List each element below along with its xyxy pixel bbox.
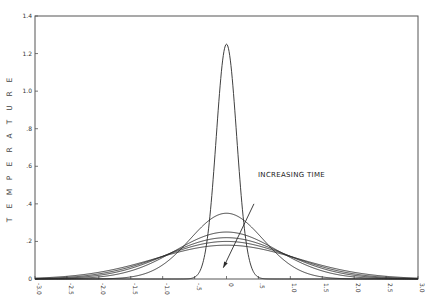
x-tick-label: -1.5 bbox=[132, 283, 139, 295]
x-tick-label: -2.0 bbox=[100, 283, 107, 295]
x-tick-label: -2.5 bbox=[68, 283, 75, 295]
y-label-letter: A bbox=[5, 133, 14, 139]
plot-frame bbox=[35, 16, 418, 279]
x-tick-label: -3.0 bbox=[36, 283, 43, 295]
curve-t2 bbox=[35, 213, 418, 279]
x-tick-label: 2.5 bbox=[387, 283, 394, 293]
temperature-chart: 0.2.4.6.81.01.21.4 -3.0-2.5-2.0-1.5-1.0-… bbox=[0, 0, 429, 306]
x-tick-label: .5 bbox=[259, 283, 266, 289]
y-tick-label: .4 bbox=[26, 200, 32, 207]
x-tick-label: 1.5 bbox=[323, 283, 330, 293]
y-tick-label: 0 bbox=[28, 275, 32, 282]
annotation-label: INCREASING TIME bbox=[258, 171, 325, 179]
x-tick-label: 3.0 bbox=[419, 283, 426, 293]
y-axis-ticks: 0.2.4.6.81.01.21.4 bbox=[22, 12, 38, 282]
y-label-letter: T bbox=[5, 119, 14, 125]
y-label-letter: E bbox=[5, 161, 14, 166]
x-tick-label: 2.0 bbox=[355, 283, 362, 293]
y-label-letter: M bbox=[5, 189, 14, 195]
y-label-letter: U bbox=[5, 105, 14, 111]
y-label-letter: E bbox=[5, 77, 14, 82]
y-label-letter: R bbox=[5, 147, 14, 152]
arrow-head-icon bbox=[223, 261, 227, 267]
y-label-letter: P bbox=[5, 175, 14, 180]
y-label-letter: E bbox=[5, 203, 14, 208]
y-tick-label: 1.4 bbox=[22, 12, 32, 19]
y-tick-label: .6 bbox=[26, 162, 32, 169]
x-tick-label: -1.0 bbox=[164, 283, 171, 295]
y-tick-label: 1.0 bbox=[22, 87, 32, 94]
x-tick-label: 0 bbox=[228, 283, 235, 287]
curve-t3 bbox=[35, 232, 418, 279]
y-tick-label: .2 bbox=[26, 237, 32, 244]
y-label-letter: T bbox=[5, 217, 14, 223]
curve-t1 bbox=[35, 44, 418, 279]
temperature-curves bbox=[35, 44, 418, 279]
x-tick-label: -.5 bbox=[196, 283, 203, 291]
y-label-letter: R bbox=[5, 91, 14, 96]
x-tick-label: 1.0 bbox=[291, 283, 298, 293]
increasing-time-annotation: INCREASING TIME bbox=[223, 171, 325, 268]
curve-t4 bbox=[35, 238, 418, 279]
y-tick-label: 1.2 bbox=[22, 50, 32, 57]
y-tick-label: .8 bbox=[26, 125, 32, 132]
y-axis-label: TEMPERATURE bbox=[5, 77, 14, 223]
